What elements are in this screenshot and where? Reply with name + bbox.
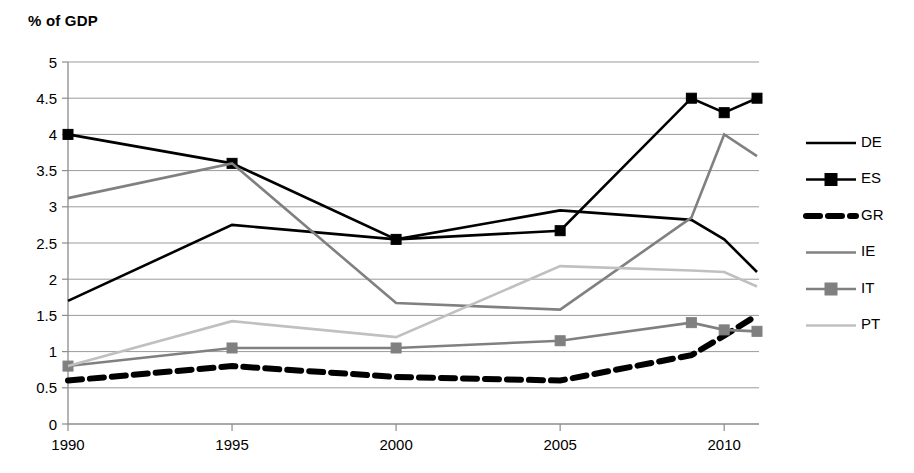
data-point-marker	[686, 318, 696, 328]
y-axis-tick-label: 3.5	[36, 162, 57, 179]
legend-entry-de[interactable]: DE	[806, 133, 882, 150]
data-series	[63, 93, 762, 380]
legend-label-it: IT	[861, 279, 874, 296]
data-point-marker	[686, 93, 696, 103]
series-es	[63, 93, 762, 244]
x-axis-tick-label: 2005	[543, 436, 576, 453]
series-de	[68, 210, 757, 301]
y-axis-tick-labels: 00.511.522.533.544.55	[36, 54, 57, 433]
data-point-marker	[752, 93, 762, 103]
x-axis-tick-label: 1995	[215, 436, 248, 453]
y-axis-tick-label: 4.5	[36, 90, 57, 107]
legend-label-gr: GR	[861, 206, 884, 223]
legend-entry-ie[interactable]: IE	[806, 242, 875, 259]
data-point-marker	[719, 108, 729, 118]
data-point-marker	[391, 234, 401, 244]
legend-entry-pt[interactable]: PT	[806, 315, 880, 332]
data-point-marker	[719, 325, 729, 335]
data-point-marker	[391, 343, 401, 353]
y-axis-tick-label: 4	[49, 126, 57, 143]
y-axis-tick-label: 0	[49, 416, 57, 433]
legend-entry-gr[interactable]: GR	[806, 206, 884, 223]
y-axis-tick-label: 0.5	[36, 379, 57, 396]
chart-container: % of GDP 00.511.522.533.544.55 199019952…	[0, 0, 914, 473]
x-axis-tick-labels: 19901995200020052010	[51, 436, 741, 453]
x-axis-tick-label: 1990	[51, 436, 84, 453]
data-point-marker	[555, 226, 565, 236]
legend-marker-es	[825, 174, 837, 186]
legend-label-ie: IE	[861, 242, 875, 259]
data-point-marker	[227, 343, 237, 353]
y-axis-tick-label: 2	[49, 271, 57, 288]
x-axis-tick-label: 2000	[379, 436, 412, 453]
y-axis-tick-label: 1	[49, 343, 57, 360]
chart-svg: 00.511.522.533.544.55 199019952000200520…	[0, 0, 914, 473]
data-point-marker	[63, 129, 73, 139]
x-axis-tick-label: 2010	[708, 436, 741, 453]
legend-entry-it[interactable]: IT	[806, 279, 874, 296]
chart-legend: DEESGRIEITPT	[806, 133, 884, 333]
legend-label-pt: PT	[861, 315, 880, 332]
legend-entry-es[interactable]: ES	[806, 169, 881, 186]
legend-label-de: DE	[861, 133, 882, 150]
series-line-pt	[68, 266, 757, 366]
y-axis-tick-label: 5	[49, 54, 57, 71]
series-line-de	[68, 210, 757, 301]
legend-label-es: ES	[861, 169, 881, 186]
plot-area: 00.511.522.533.544.55 199019952000200520…	[0, 0, 914, 473]
y-axis-tick-label: 1.5	[36, 307, 57, 324]
data-point-marker	[555, 336, 565, 346]
y-axis-tick-label: 2.5	[36, 235, 57, 252]
series-line-ie	[68, 134, 757, 309]
series-pt	[68, 266, 757, 366]
series-ie	[68, 134, 757, 309]
y-axis-tick-label: 3	[49, 198, 57, 215]
data-point-marker	[752, 326, 762, 336]
legend-marker-it	[825, 283, 837, 295]
